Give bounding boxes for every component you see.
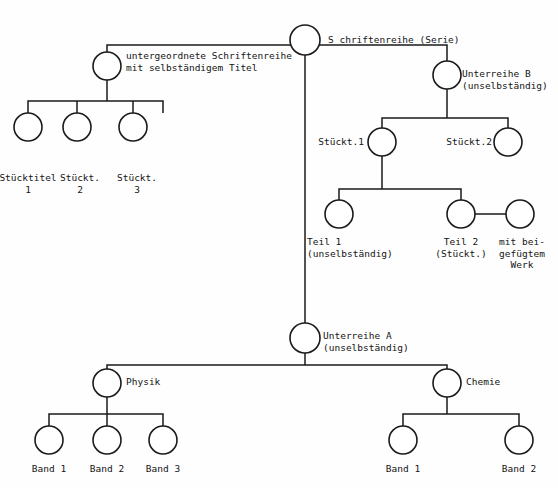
chemie-b1-label: Band 1 xyxy=(386,463,420,475)
node-unterreihe-b[interactable] xyxy=(433,61,461,89)
node-stueckt1[interactable] xyxy=(14,113,42,141)
node-physik-b3[interactable] xyxy=(149,426,177,454)
edge-st1-bus xyxy=(339,189,461,200)
unterreihe-b-label: Unterreihe B (unselbständig) xyxy=(462,68,548,91)
chemie-label: Chemie xyxy=(466,376,500,388)
physik-b3-label: Band 3 xyxy=(146,463,180,475)
st2-label: Stückt.2 xyxy=(446,136,492,148)
edge-subseries-bus xyxy=(28,101,163,113)
node-st1-node[interactable] xyxy=(368,128,396,156)
node-teil2[interactable] xyxy=(447,200,475,228)
teil1-label: Teil 1 (unselbständig) xyxy=(307,236,393,259)
node-stueckt2[interactable] xyxy=(63,113,91,141)
sub-series-label: untergeordnete Schriftenreihe mit selbst… xyxy=(126,50,292,73)
node-teil1[interactable] xyxy=(325,200,353,228)
node-stueckt3[interactable] xyxy=(119,113,147,141)
stueckt3-label: Stückt. 3 xyxy=(117,172,157,195)
edge-physik-bus xyxy=(49,414,163,426)
node-st2-node[interactable] xyxy=(494,128,522,156)
node-chemie-b2[interactable] xyxy=(505,426,533,454)
node-physik[interactable] xyxy=(93,369,121,397)
stueckt1-label: Stücktitel 1 xyxy=(0,172,57,195)
edge-unterreihe-b-bus xyxy=(382,118,508,128)
diagram-canvas: S chriftenreihe (Serie)untergeordnete Sc… xyxy=(0,0,558,488)
node-sub-series[interactable] xyxy=(93,52,121,80)
physik-b2-label: Band 2 xyxy=(90,463,124,475)
node-unterreihe-a[interactable] xyxy=(290,323,320,353)
physik-b1-label: Band 1 xyxy=(32,463,66,475)
root-label: S chriftenreihe (Serie) xyxy=(328,34,460,46)
edge-chemie-bus xyxy=(403,414,519,426)
node-physik-b1[interactable] xyxy=(35,426,63,454)
node-root[interactable] xyxy=(290,25,320,55)
node-chemie-b1[interactable] xyxy=(389,426,417,454)
node-beigefuegt[interactable] xyxy=(506,200,534,228)
node-physik-b2[interactable] xyxy=(93,426,121,454)
beigefuegt-label: mit bei- gefügtem Werk xyxy=(499,236,545,271)
node-chemie[interactable] xyxy=(433,369,461,397)
st1-label: Stückt.1 xyxy=(318,136,364,148)
stueckt2-label: Stückt. 2 xyxy=(60,172,100,195)
physik-label: Physik xyxy=(126,376,160,388)
edge-unterreihe-a-bus xyxy=(107,365,447,369)
chemie-b2-label: Band 2 xyxy=(502,463,536,475)
teil2-label: Teil 2 (Stückt.) xyxy=(435,236,486,259)
unterreihe-a-label: Unterreihe A (unselbständig) xyxy=(323,330,409,353)
